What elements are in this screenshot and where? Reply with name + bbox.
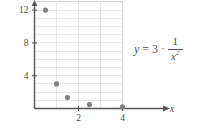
y-tick-label-4: 4	[24, 71, 29, 81]
data-point-0-4	[120, 104, 125, 109]
equation-lhs: y	[134, 43, 139, 55]
fraction-numerator: 1	[171, 36, 181, 48]
data-point-series	[43, 8, 125, 110]
y-axis-arrowhead	[32, 0, 38, 6]
x-tick-label-2: 2	[76, 113, 81, 123]
fraction-denominator: x2	[169, 51, 181, 63]
equation-relation: =	[142, 43, 149, 55]
data-point-0-0	[43, 8, 48, 13]
data-point-0-2	[65, 95, 70, 100]
tick-marks	[32, 10, 123, 111]
equation-operator: ·	[161, 43, 165, 54]
y-tick-label-8: 8	[24, 38, 29, 48]
equation-fraction: 1 x2	[168, 36, 183, 62]
x-tick-labels: 24	[76, 113, 125, 123]
denominator-exponent: 2	[176, 49, 180, 57]
y-tick-label-12: 12	[19, 5, 29, 15]
figure-container: 4812 24 x y = 3 · 1 x2	[0, 0, 200, 132]
vertical-gridlines	[57, 2, 123, 109]
equation-coefficient: 3	[152, 43, 158, 55]
equation-label: y = 3 · 1 x2	[134, 36, 183, 62]
x-tick-label-4: 4	[120, 113, 125, 123]
data-point-0-1	[54, 81, 59, 86]
y-tick-labels: 4812	[19, 5, 29, 81]
data-point-0-3	[87, 102, 92, 107]
scatter-plot: 4812 24 x	[0, 0, 200, 132]
x-axis-label: x	[169, 104, 175, 114]
